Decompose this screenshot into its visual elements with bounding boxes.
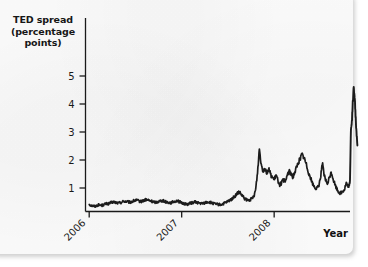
ted-spread-line-chart: 12345 200620072008 Year (0, 0, 368, 267)
y-tick-label: 2 (68, 155, 74, 166)
y-tick-label: 5 (68, 71, 74, 82)
series-line (348, 87, 357, 187)
x-tick-group: 200620072008 (62, 212, 274, 243)
x-tick-label: 2008 (247, 217, 273, 243)
x-tick-label: 2007 (154, 217, 180, 243)
x-tick-label: 2006 (62, 217, 88, 243)
chart-container: TED spread (percentage points) 12345 200… (0, 0, 368, 267)
y-tick-label: 1 (68, 183, 74, 194)
series-group (89, 87, 357, 207)
y-tick-label: 4 (68, 99, 74, 110)
series-line (89, 149, 348, 207)
y-tick-group: 12345 (68, 71, 85, 194)
y-tick-label: 3 (68, 127, 74, 138)
x-axis-title: Year (322, 228, 348, 239)
figure-page: TED spread (percentage points) 12345 200… (0, 0, 368, 267)
